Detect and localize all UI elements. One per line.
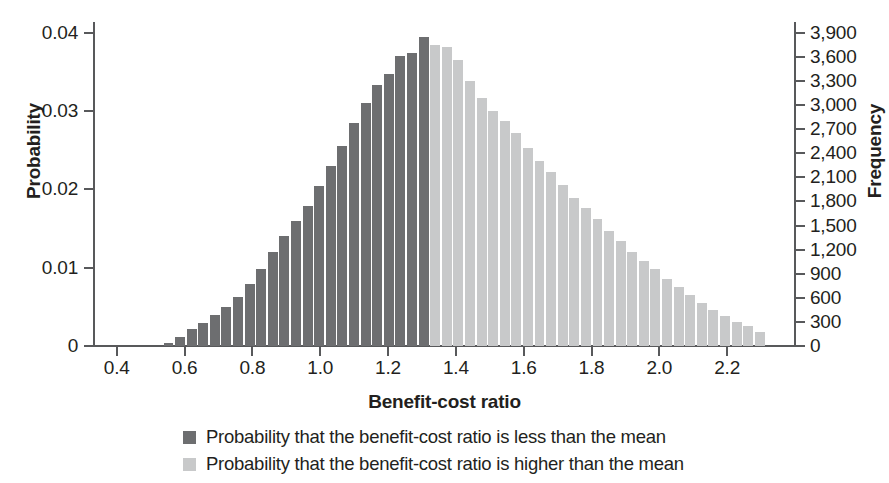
histogram-bar bbox=[662, 279, 672, 346]
histogram-bar bbox=[627, 252, 637, 346]
histogram-bar bbox=[233, 297, 243, 346]
histogram-bar bbox=[488, 111, 498, 346]
histogram-bar bbox=[291, 221, 301, 346]
histogram-bar bbox=[187, 329, 197, 346]
histogram-bar bbox=[198, 323, 208, 346]
x-axis-tick bbox=[455, 347, 457, 356]
x-axis-tick bbox=[726, 347, 728, 356]
histogram-bar bbox=[221, 307, 231, 346]
y-axis-right-tick bbox=[796, 152, 805, 154]
y-axis-left-tick bbox=[84, 345, 93, 347]
y-axis-right-tick bbox=[796, 32, 805, 34]
histogram-bar bbox=[372, 85, 382, 346]
histogram-bar bbox=[442, 47, 452, 346]
histogram-bar bbox=[361, 103, 371, 346]
y-axis-right-tick bbox=[796, 345, 805, 347]
legend-label-above-mean: Probability that the benefit-cost ratio … bbox=[206, 455, 684, 474]
histogram-bar bbox=[569, 198, 579, 346]
y-axis-right-tick-label: 900 bbox=[810, 264, 889, 283]
y-axis-right-tick bbox=[796, 80, 805, 82]
histogram-bar bbox=[175, 337, 185, 346]
x-axis-tick-label: 0.6 bbox=[155, 358, 215, 377]
y-axis-right-tick bbox=[796, 56, 805, 58]
x-axis-tick-label: 1.4 bbox=[426, 358, 486, 377]
x-axis-tick bbox=[319, 347, 321, 356]
histogram-bar bbox=[743, 326, 753, 346]
histogram-bar bbox=[558, 185, 568, 346]
y-axis-right-tick bbox=[796, 321, 805, 323]
legend-swatch-icon-above-mean bbox=[183, 458, 196, 471]
y-axis-left-tick bbox=[84, 110, 93, 112]
y-axis-left-tick bbox=[84, 188, 93, 190]
plot-area bbox=[93, 22, 795, 346]
y-axis-right-tick bbox=[796, 249, 805, 251]
x-axis-title: Benefit-cost ratio bbox=[93, 391, 796, 413]
y-axis-left-tick bbox=[84, 32, 93, 34]
y-axis-right-tick-label: 3,900 bbox=[810, 23, 889, 42]
x-axis-tick bbox=[523, 347, 525, 356]
y-axis-left-tick-label: 0.04 bbox=[0, 23, 78, 42]
histogram-bar bbox=[477, 98, 487, 346]
histogram-bar bbox=[697, 303, 707, 346]
histogram-bar bbox=[720, 316, 730, 346]
y-axis-left-tick bbox=[84, 267, 93, 269]
chart-legend: Probability that the benefit-cost ratio … bbox=[0, 424, 889, 478]
legend-item-below-mean: Probability that the benefit-cost ratio … bbox=[0, 424, 889, 451]
histogram-bar bbox=[708, 310, 718, 346]
histogram-bar bbox=[732, 322, 742, 346]
y-axis-left-title: Probability bbox=[23, 41, 45, 261]
legend-item-above-mean: Probability that the benefit-cost ratio … bbox=[0, 451, 889, 478]
y-axis-right-tick bbox=[796, 225, 805, 227]
histogram-bar bbox=[593, 219, 603, 346]
histogram-bar bbox=[674, 287, 684, 346]
histogram-bar bbox=[535, 161, 545, 346]
histogram-bar bbox=[245, 284, 255, 346]
histogram-bar bbox=[616, 241, 626, 346]
histogram-bar bbox=[650, 269, 660, 346]
x-axis-tick-label: 2.2 bbox=[697, 358, 757, 377]
histogram-bar bbox=[419, 37, 429, 346]
histogram-bar bbox=[314, 186, 324, 346]
histogram-bar bbox=[453, 60, 463, 346]
histogram-bar bbox=[279, 236, 289, 346]
x-axis-tick-label: 0.8 bbox=[222, 358, 282, 377]
x-axis-tick bbox=[251, 347, 253, 356]
histogram-bar bbox=[685, 295, 695, 346]
x-axis-tick bbox=[387, 347, 389, 356]
x-axis-tick bbox=[184, 347, 186, 356]
histogram-bar bbox=[500, 121, 510, 346]
x-axis-tick-label: 1.0 bbox=[290, 358, 350, 377]
y-axis-left-tick-label: 0 bbox=[0, 336, 78, 355]
histogram-bar bbox=[581, 208, 591, 346]
y-axis-right-tick bbox=[796, 200, 805, 202]
histogram-bar bbox=[210, 315, 220, 346]
chart-figure: 00.010.020.030.04 03006009001,2001,5001,… bbox=[0, 0, 889, 483]
histogram-bar bbox=[407, 53, 417, 346]
x-axis-tick-label: 1.8 bbox=[562, 358, 622, 377]
histogram-bar bbox=[465, 81, 475, 346]
y-axis-right-tick bbox=[796, 176, 805, 178]
x-axis-tick bbox=[116, 347, 118, 356]
histogram-bar bbox=[326, 166, 336, 346]
y-axis-right-tick bbox=[796, 128, 805, 130]
histogram-bar bbox=[395, 56, 405, 346]
histogram-bar bbox=[430, 45, 440, 346]
legend-swatch-icon-below-mean bbox=[183, 431, 196, 444]
y-axis-right-tick bbox=[796, 273, 805, 275]
y-axis-right-tick bbox=[796, 104, 805, 106]
x-axis-tick bbox=[591, 347, 593, 356]
y-axis-right-tick-label: 600 bbox=[810, 288, 889, 307]
x-axis-tick bbox=[658, 347, 660, 356]
histogram-bar bbox=[523, 148, 533, 346]
histogram-bar bbox=[546, 172, 556, 346]
x-axis-tick-label: 0.4 bbox=[87, 358, 147, 377]
legend-label-below-mean: Probability that the benefit-cost ratio … bbox=[206, 428, 666, 447]
x-axis-tick-label: 1.6 bbox=[494, 358, 554, 377]
x-axis-tick-label: 2.0 bbox=[629, 358, 689, 377]
histogram-bar bbox=[384, 74, 394, 346]
y-axis-right-tick-label: 0 bbox=[810, 336, 889, 355]
histogram-bar bbox=[256, 269, 266, 346]
histogram-bar bbox=[303, 206, 313, 346]
histogram-bar bbox=[511, 133, 521, 346]
histogram-bar bbox=[349, 123, 359, 346]
